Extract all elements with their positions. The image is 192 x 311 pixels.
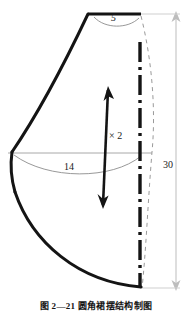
figure-caption: 图 2—21 圆角裙摆结构制图 [0,299,192,311]
top-arc-label: 5 [111,13,116,23]
height-dimension-line [140,11,181,291]
pattern-figure: 5 14 × 2 30 图 2—21 圆角裙摆结构制图 [0,0,192,311]
overall-height-label: 30 [163,160,173,170]
seam-allowance-curve [141,16,154,288]
grain-line [98,86,115,209]
waist-arc-measure-line [14,155,141,174]
pattern-outline [11,14,141,287]
cut-quantity-label: × 2 [109,131,122,141]
top-arc-measure-line [94,17,139,26]
pattern-drawing [0,0,192,311]
waist-arc-label: 14 [64,162,74,172]
